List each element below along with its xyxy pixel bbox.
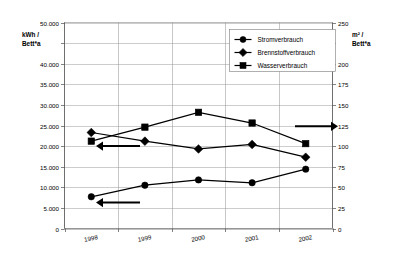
left-axis-tick-label: 30.000	[40, 102, 59, 109]
right-axis-title-line2: Bett*a	[352, 40, 371, 47]
data-point-circle	[88, 194, 94, 200]
left-axis-tick-label: 0	[56, 226, 60, 233]
left-axis-title-line2: Bett*a	[22, 40, 41, 47]
right-axis-tick-label: 250	[338, 20, 349, 27]
legend-label: Brennstoffverbrauch	[258, 49, 316, 56]
data-point-circle	[195, 177, 201, 183]
left-axis-tick-label: 20.000	[40, 143, 59, 150]
legend-item-wasserverbrauch[interactable]: Wasserverbrauch	[235, 62, 308, 69]
data-point-circle	[240, 37, 246, 43]
left-axis-tick-label: 35.000	[40, 81, 59, 88]
legend-label: Stromverbrauch	[258, 36, 304, 43]
line-chart: 05.00010.00015.00020.00025.00030.00035.0…	[0, 0, 393, 254]
right-axis-tick-label: 100	[338, 143, 349, 150]
right-axis-tick-label: 200	[338, 61, 349, 68]
data-point-square	[303, 140, 309, 146]
data-point-square	[240, 63, 246, 69]
data-point-square	[195, 109, 201, 115]
data-point-square	[249, 120, 255, 126]
right-axis-tick-label: 0	[338, 226, 342, 233]
data-point-square	[142, 124, 148, 130]
right-axis-tick-label: 50	[338, 184, 345, 191]
chart-container: 05.00010.00015.00020.00025.00030.00035.0…	[0, 0, 393, 254]
left-axis-tick-label: 25.000	[40, 123, 59, 130]
data-point-circle	[249, 180, 255, 186]
left-axis-tick-label: 15.000	[40, 164, 59, 171]
data-point-circle	[303, 166, 309, 172]
right-axis-tick-label: 25	[338, 205, 345, 212]
right-axis-title-line1: m² /	[352, 31, 364, 38]
left-axis-tick-label: 5.000	[44, 205, 60, 212]
right-axis-tick-label: 150	[338, 102, 349, 109]
right-axis-tick-label: 75	[338, 164, 345, 171]
left-axis-tick-label: 40.000	[40, 61, 59, 68]
left-axis-tick-label: 50.000	[40, 20, 59, 27]
chart-legend: StromverbrauchBrennstoffverbrauchWasserv…	[230, 30, 336, 72]
legend-label: Wasserverbrauch	[258, 62, 308, 69]
data-point-square	[88, 138, 94, 144]
right-axis-tick-label: 125	[338, 123, 349, 130]
right-axis-tick-label: 175	[338, 81, 349, 88]
data-point-circle	[142, 182, 148, 188]
left-axis-tick-label: 10.000	[40, 184, 59, 191]
left-axis-title-line1: kWh /	[22, 31, 39, 38]
legend-item-stromverbrauch[interactable]: Stromverbrauch	[235, 36, 304, 43]
